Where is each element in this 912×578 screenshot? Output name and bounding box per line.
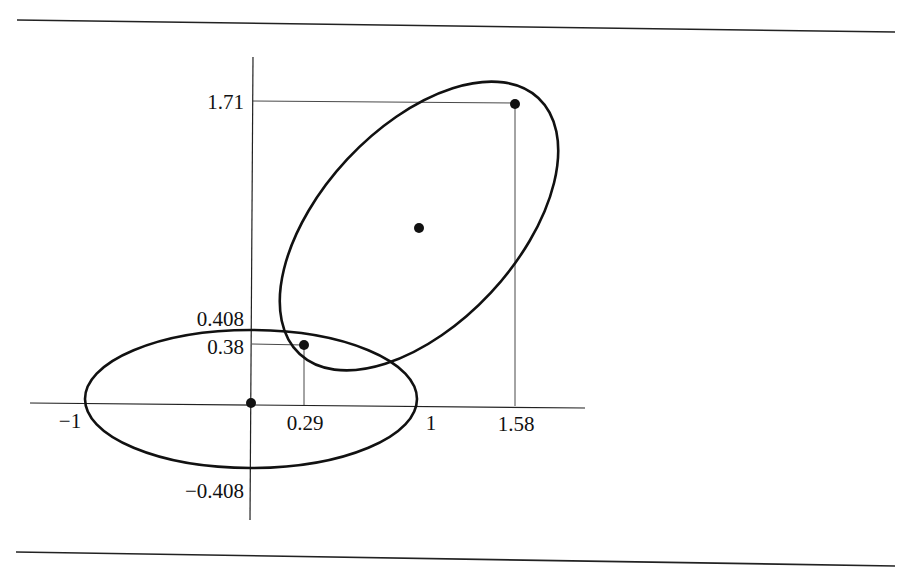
- top-rule: [17, 20, 895, 32]
- rotated-ellipse-center-point: [414, 223, 424, 233]
- top-point: [510, 99, 520, 109]
- y-label-0.408: 0.408: [197, 307, 244, 331]
- x-label-neg-1: −1: [59, 409, 81, 433]
- x-label-0.29: 0.29: [287, 411, 324, 435]
- y-axis: [250, 57, 253, 520]
- x-label-1: 1: [426, 411, 437, 435]
- y-label-1.71: 1.71: [207, 90, 244, 114]
- y-label-0.38: 0.38: [207, 335, 244, 359]
- bottom-rule: [16, 552, 895, 566]
- x-label-1.58: 1.58: [498, 412, 535, 436]
- y-label-neg-0.408: −0.408: [185, 479, 244, 503]
- guide-y-1.71: [252, 101, 515, 103]
- ellipse-diagram: 1.71 0.408 0.38 −0.408 −1 0.29 1 1.58: [0, 0, 912, 578]
- guide-y-0.38: [252, 344, 304, 345]
- tangent-point: [299, 340, 309, 350]
- x-axis: [30, 403, 585, 408]
- origin-point: [246, 398, 256, 408]
